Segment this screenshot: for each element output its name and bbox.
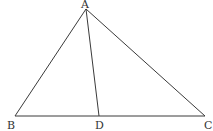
- segment-ad: [86, 9, 99, 116]
- triangle-diagram: A B D C: [0, 0, 213, 131]
- label-b: B: [7, 119, 15, 131]
- label-d: D: [95, 119, 104, 131]
- segment-ab: [15, 9, 86, 116]
- segment-ac: [86, 9, 205, 116]
- label-c: C: [204, 119, 212, 131]
- label-a: A: [80, 0, 90, 11]
